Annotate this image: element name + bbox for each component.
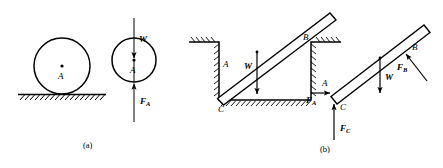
- panel-b-space-diagram: [189, 13, 341, 106]
- label-point-a-space: A: [58, 72, 64, 81]
- label-point-c-fbd-b: C: [340, 103, 346, 112]
- panel-a-space-diagram: [18, 38, 106, 100]
- label-point-b-space-b: B: [303, 33, 309, 42]
- label-point-c-space-b: C: [218, 105, 224, 114]
- wheel-center-dot: [60, 64, 63, 67]
- bar-body: [218, 13, 337, 105]
- mechanics-figure: A W A FA (a) A B C W A FA C FC W B FB (b…: [0, 0, 443, 168]
- force-fa-subscript: A: [146, 100, 150, 107]
- label-point-a-fbd-b: A: [322, 79, 328, 88]
- force-fa-b-subscript: A: [312, 99, 316, 106]
- label-force-fb-b: FB: [397, 63, 407, 72]
- label-force-w-a: W: [139, 35, 147, 44]
- label-point-a-fbd: A: [130, 66, 136, 75]
- fbd-force-b-arrow: [406, 54, 427, 81]
- label-force-fa-a: FA: [140, 97, 150, 106]
- caption-a: (a): [83, 141, 92, 150]
- caption-b: (b): [320, 145, 330, 154]
- force-fb-subscript: B: [403, 66, 407, 73]
- label-point-a-space-b: A: [223, 60, 229, 69]
- label-force-w-space-b: W: [244, 62, 252, 71]
- label-point-b-fbd-b: B: [412, 43, 418, 52]
- figure-canvas: [0, 0, 443, 168]
- force-fc-subscript: C: [346, 127, 350, 134]
- label-force-w-fbd-b: W: [385, 73, 393, 82]
- label-force-fa-b: FA: [306, 96, 316, 105]
- label-force-fc-b: FC: [340, 124, 350, 133]
- ground-hatching: [20, 95, 105, 100]
